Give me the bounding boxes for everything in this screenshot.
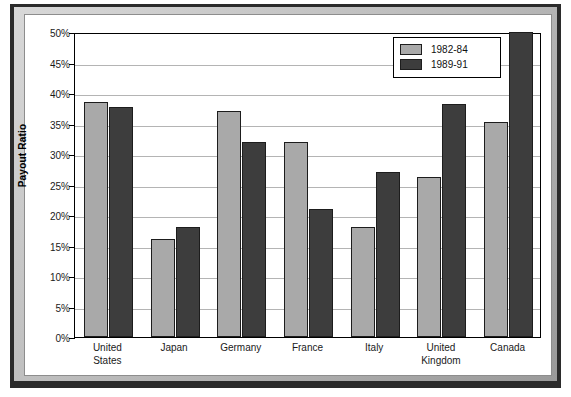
y-axis-tick-mark — [69, 94, 75, 95]
y-axis-tick-label: 25% — [34, 180, 70, 191]
y-axis-tick-label: 35% — [34, 119, 70, 130]
bar-group — [151, 34, 200, 337]
bar-germany-1989-91 — [242, 142, 266, 337]
y-axis-tick-mark — [69, 33, 75, 34]
y-axis-tick-label: 5% — [34, 302, 70, 313]
bar-group — [284, 34, 333, 337]
x-axis-tick-label: Canada — [474, 341, 541, 354]
y-axis-tick-mark — [69, 155, 75, 156]
x-axis-tick-label-line: States — [74, 354, 141, 367]
x-axis-tick-label-line: United — [74, 341, 141, 354]
legend-label: 1989-91 — [431, 59, 468, 70]
x-axis-tick-label-line: Kingdom — [408, 354, 475, 367]
chart-legend: 1982-841989-91 — [393, 37, 501, 78]
x-axis-tick-labels: UnitedStatesJapanGermanyFranceItalyUnite… — [74, 341, 541, 385]
bar-group — [484, 34, 533, 337]
bar-united-kingdom-1982-84 — [417, 177, 441, 337]
x-axis-tick-label: Japan — [141, 341, 208, 354]
x-axis-tick-label-line: Canada — [474, 341, 541, 354]
bar-united-states-1982-84 — [84, 102, 108, 337]
y-axis-tick-mark — [69, 64, 75, 65]
y-axis-tick-labels: 0%5%10%15%20%25%30%35%40%45%50% — [30, 33, 70, 338]
x-axis-tick-label-line: France — [274, 341, 341, 354]
bar-united-states-1989-91 — [109, 107, 133, 337]
y-axis-tick-mark — [69, 338, 75, 339]
x-axis-tick-label-line: Germany — [207, 341, 274, 354]
y-axis-tick-label: 45% — [34, 58, 70, 69]
y-axis-tick-label: 10% — [34, 272, 70, 283]
legend-swatch-light-gray — [400, 44, 422, 55]
bar-japan-1982-84 — [151, 239, 175, 337]
bar-chart: Payout Ratio 0%5%10%15%20%25%30%35%40%45… — [0, 0, 571, 397]
x-axis-tick-label-line: United — [408, 341, 475, 354]
plot-area — [74, 33, 541, 338]
y-axis-tick-label: 50% — [34, 28, 70, 39]
bar-italy-1982-84 — [351, 227, 375, 337]
y-axis-tick-mark — [69, 186, 75, 187]
y-axis-tick-label: 40% — [34, 89, 70, 100]
x-axis-tick-label-line: Japan — [141, 341, 208, 354]
y-axis-tick-label: 30% — [34, 150, 70, 161]
y-axis-tick-label: 20% — [34, 211, 70, 222]
bar-group — [417, 34, 466, 337]
legend-label: 1982-84 — [431, 44, 468, 55]
y-axis-tick-label: 0% — [34, 333, 70, 344]
legend-swatch-dark-gray — [400, 59, 422, 70]
y-axis-title: Payout Ratio — [17, 96, 28, 216]
bar-group — [217, 34, 266, 337]
x-axis-tick-label: France — [274, 341, 341, 354]
bar-canada-1989-91 — [509, 32, 533, 337]
bar-united-kingdom-1989-91 — [442, 104, 466, 337]
bar-france-1989-91 — [309, 209, 333, 337]
y-axis-tick-mark — [69, 216, 75, 217]
bar-italy-1989-91 — [376, 172, 400, 337]
y-axis-tick-mark — [69, 308, 75, 309]
bar-group — [84, 34, 133, 337]
y-axis-tick-mark — [69, 277, 75, 278]
y-axis-tick-mark — [69, 247, 75, 248]
bar-france-1982-84 — [284, 142, 308, 337]
x-axis-tick-label: Italy — [341, 341, 408, 354]
x-axis-tick-label: UnitedKingdom — [408, 341, 475, 367]
legend-item: 1982-84 — [400, 42, 494, 57]
x-axis-tick-label-line: Italy — [341, 341, 408, 354]
bar-japan-1989-91 — [176, 227, 200, 337]
y-axis-tick-label: 15% — [34, 241, 70, 252]
bar-group — [351, 34, 400, 337]
bar-canada-1982-84 — [484, 122, 508, 337]
bar-germany-1982-84 — [217, 111, 241, 337]
y-axis-tick-mark — [69, 125, 75, 126]
x-axis-tick-label: Germany — [207, 341, 274, 354]
x-axis-tick-label: UnitedStates — [74, 341, 141, 367]
legend-item: 1989-91 — [400, 57, 494, 72]
